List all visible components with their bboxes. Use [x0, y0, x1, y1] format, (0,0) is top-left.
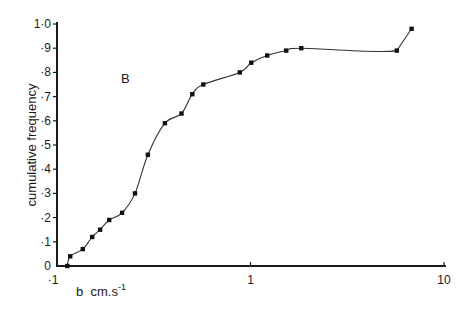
y-tick-label: ·2 [40, 211, 51, 225]
data-point-marker [133, 191, 137, 195]
data-point-marker [201, 82, 205, 86]
x-tick-label: 10 [437, 273, 451, 287]
y-tick-label: 0 [44, 259, 51, 273]
x-tick-label: ·1 [48, 273, 59, 287]
x-tick-label: 1 [247, 273, 254, 287]
y-tick-label: ·1 [40, 235, 51, 249]
axes [56, 22, 446, 266]
data-point-marker [146, 153, 150, 157]
y-axis-title: cumulative frequency [24, 83, 39, 206]
y-tick-label: ·4 [40, 162, 51, 176]
x-axis-title-superscript: -1 [118, 282, 126, 292]
x-axis-title: b cm.s-1 [76, 282, 126, 299]
y-tick-label: ·6 [40, 114, 51, 128]
y-tick-label: ·8 [40, 65, 51, 79]
data-point-marker [163, 121, 167, 125]
y-tick-label: ·5 [40, 138, 51, 152]
panel-label: B [121, 71, 130, 86]
data-series [65, 27, 414, 269]
y-tick-label: 1·0 [34, 17, 52, 31]
cumulative-frequency-chart: 0·1·2·3·4·5·6·7·8·91·0 ·1110 B cumulativ… [0, 0, 468, 310]
data-point-marker [90, 235, 94, 239]
series-line [67, 29, 411, 266]
data-point-marker [284, 48, 288, 52]
data-point-marker [395, 48, 399, 52]
x-axis-title-main: b cm.s [76, 284, 118, 299]
data-point-marker [249, 61, 253, 65]
data-point-marker [68, 254, 72, 258]
data-point-marker [299, 46, 303, 50]
y-tick-label: ·3 [40, 186, 51, 200]
y-tick-label: ·7 [40, 90, 51, 104]
data-point-marker [238, 70, 242, 74]
data-point-marker [190, 92, 194, 96]
data-point-marker [98, 228, 102, 232]
data-point-marker [65, 264, 69, 268]
y-tick-label: ·9 [40, 41, 51, 55]
data-point-marker [107, 218, 111, 222]
data-point-marker [179, 111, 183, 115]
data-point-marker [120, 211, 124, 215]
data-point-marker [409, 27, 413, 31]
data-point-marker [81, 247, 85, 251]
data-point-marker [265, 53, 269, 57]
